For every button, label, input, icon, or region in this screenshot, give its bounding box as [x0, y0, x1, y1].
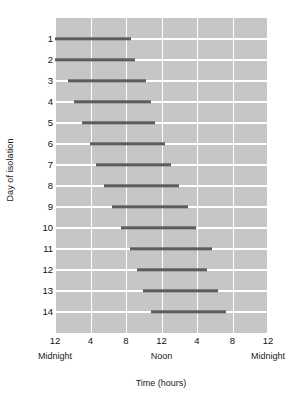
y-tick-label: 12 [25, 265, 53, 275]
gridline-vertical [55, 18, 56, 333]
y-axis-title: Day of isolation [0, 0, 20, 340]
bar [74, 100, 151, 103]
y-tick-label: 2 [25, 55, 53, 65]
isolation-timeline-chart: Day of isolation 1234567891011121314 124… [0, 0, 288, 416]
gridline-vertical [126, 18, 127, 333]
y-tick-label: 3 [25, 76, 53, 86]
y-tick-label: 5 [25, 118, 53, 128]
bar [104, 184, 179, 187]
bar [151, 310, 226, 313]
y-tick-label: 9 [25, 202, 53, 212]
y-tick-label: 1 [25, 34, 53, 44]
bar [55, 58, 135, 61]
y-tick-label: 8 [25, 181, 53, 191]
y-tick-label: 4 [25, 97, 53, 107]
gridline-vertical [162, 18, 163, 333]
bar [96, 163, 171, 166]
x-tick-label: 8 [123, 336, 128, 346]
bar [143, 289, 218, 292]
bar [137, 268, 207, 271]
y-tick-label: 13 [25, 286, 53, 296]
bar [90, 142, 165, 145]
bar [82, 121, 156, 124]
y-tick-label: 14 [25, 307, 53, 317]
y-axis-tick-labels: 1234567891011121314 [20, 0, 53, 416]
y-tick-label: 6 [25, 139, 53, 149]
bar [68, 79, 146, 82]
x-tick-label: 4 [88, 336, 93, 346]
bar [112, 205, 188, 208]
y-tick-label: 7 [25, 160, 53, 170]
x-tick-label: 12 [263, 336, 274, 346]
bar [55, 37, 131, 40]
bar [121, 226, 196, 229]
gridline-vertical [197, 18, 198, 333]
x-tick-label: 8 [230, 336, 235, 346]
gridline-vertical [233, 18, 234, 333]
plot-area [55, 18, 268, 333]
x-period-label: Noon [151, 352, 173, 361]
x-period-label: Midnight [251, 352, 285, 361]
gridline-vertical [267, 18, 268, 333]
y-tick-label: 10 [25, 223, 53, 233]
y-axis-title-text: Day of isolation [5, 138, 15, 201]
bar [130, 247, 212, 250]
x-tick-label: 12 [156, 336, 167, 346]
y-tick-label: 11 [25, 244, 53, 254]
x-axis-title: Time (hours) [136, 378, 187, 388]
x-tick-label: 4 [194, 336, 199, 346]
gridline-vertical [91, 18, 92, 333]
